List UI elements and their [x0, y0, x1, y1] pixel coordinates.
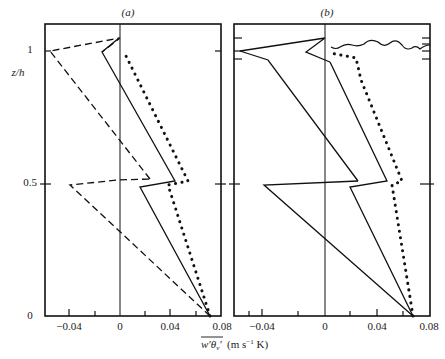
panel-b-wavy-inversion-line: [331, 40, 430, 49]
y-tick-label-0.5: 0.5: [23, 176, 37, 188]
panel-b-dotted-line: [330, 53, 413, 316]
x-tick-a-008: 0.08: [212, 320, 232, 332]
panel-a-solid-line: [102, 38, 210, 316]
x-axis-units: (m s−1 K): [227, 338, 268, 351]
x-axis-label: w′θv′ (m s−1 K): [201, 337, 268, 352]
panel-a-dashed-upper: [50, 38, 150, 179]
panel-b: [229, 24, 434, 316]
panel-b-solid-right-line: [330, 62, 413, 316]
panel-a: [40, 24, 226, 316]
panel-a-title: (a): [122, 6, 135, 19]
x-tick-a-0: 0: [117, 320, 123, 332]
x-tick-b-0: 0: [322, 320, 328, 332]
y-tick-label-1: 1: [27, 43, 33, 55]
y-tick-label-0: 0: [27, 309, 33, 321]
x-axis-symbol: w′θv′: [201, 338, 222, 352]
y-axis-label: z/h: [11, 66, 25, 78]
x-tick-b-m004: −0.04: [249, 320, 275, 332]
panel-b-solid-upper-line: [240, 38, 358, 181]
figure: (a) (b) z/h 1 0.5 0: [0, 0, 445, 359]
x-tick-a-m004: −0.04: [56, 320, 82, 332]
panel-b-title: (b): [321, 6, 334, 19]
panel-b-frame: [234, 24, 430, 316]
panel-b-solid-left-line: [264, 181, 413, 316]
x-tick-b-008: 0.08: [419, 320, 439, 332]
x-tick-b-004: 0.04: [367, 320, 387, 332]
x-tick-a-004: 0.04: [160, 320, 180, 332]
